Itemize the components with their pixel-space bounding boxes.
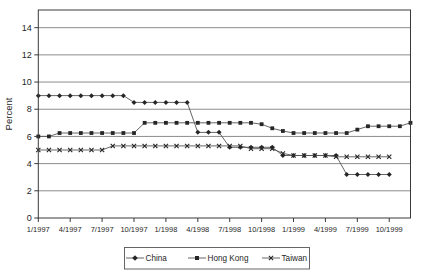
legend-label-hong-kong: Hong Kong bbox=[208, 254, 249, 263]
hong-kong-square-marker-icon bbox=[302, 131, 306, 135]
series-lines bbox=[36, 93, 413, 177]
series-china bbox=[36, 93, 392, 177]
x-axis-label: 10/1997 bbox=[120, 225, 147, 234]
hong-kong-square-marker-icon bbox=[217, 121, 221, 125]
hong-kong-square-marker-icon bbox=[111, 131, 115, 135]
china-diamond-marker-icon bbox=[68, 93, 73, 98]
hong-kong-square-marker-icon bbox=[313, 131, 317, 135]
china-diamond-marker-icon bbox=[110, 93, 115, 98]
china-diamond-marker-icon bbox=[387, 172, 392, 177]
china-diamond-marker-icon bbox=[365, 172, 370, 177]
x-axis-label: 1/1997 bbox=[27, 225, 50, 234]
china-diamond-marker-icon bbox=[132, 100, 137, 105]
y-axis-label: 0 bbox=[27, 213, 32, 223]
line-chart: 02468101214 1/19974/19977/199710/19971/1… bbox=[0, 0, 421, 277]
hong-kong-square-marker-icon bbox=[270, 126, 274, 130]
hong-kong-square-marker-icon bbox=[100, 131, 104, 135]
china-diamond-marker-icon bbox=[376, 172, 381, 177]
hong-kong-square-marker-icon bbox=[387, 124, 391, 128]
hong-kong-square-marker-icon bbox=[196, 121, 200, 125]
china-diamond-marker-icon bbox=[195, 130, 200, 135]
y-axis-label: 8 bbox=[27, 104, 32, 114]
y-axis-label: 14 bbox=[22, 23, 32, 33]
y-gridlines bbox=[38, 28, 410, 191]
hong-kong-square-marker-icon bbox=[121, 131, 125, 135]
hong-kong-square-marker-icon bbox=[366, 124, 370, 128]
hong-kong-square-marker-icon bbox=[249, 121, 253, 125]
china-diamond-marker-icon bbox=[174, 100, 179, 105]
hong-kong-square-marker-icon bbox=[68, 131, 72, 135]
x-axis-ticks bbox=[38, 218, 389, 222]
series-hong-kong bbox=[36, 121, 412, 138]
china-diamond-marker-icon bbox=[206, 130, 211, 135]
y-axis-labels: 02468101214 bbox=[22, 23, 32, 223]
x-axis-label: 7/1997 bbox=[91, 225, 114, 234]
hong-kong-square-marker-icon bbox=[334, 131, 338, 135]
hong-kong-square-marker-icon bbox=[377, 124, 381, 128]
y-axis-label: 6 bbox=[27, 132, 32, 142]
hong-kong-square-marker-icon bbox=[355, 128, 359, 132]
china-diamond-marker-icon bbox=[89, 93, 94, 98]
series-taiwan bbox=[36, 144, 391, 159]
china-diamond-marker-icon bbox=[153, 100, 158, 105]
x-axis-label: 7/1999 bbox=[346, 225, 369, 234]
chart-figure: 02468101214 1/19974/19977/199710/19971/1… bbox=[0, 0, 421, 277]
legend-label-taiwan: Taiwan bbox=[282, 254, 308, 263]
hong-kong-square-marker-icon bbox=[79, 131, 83, 135]
china-diamond-marker-icon bbox=[344, 172, 349, 177]
hong-kong-square-marker-icon bbox=[58, 131, 62, 135]
china-diamond-marker-icon bbox=[121, 93, 126, 98]
hong-kong-square-marker-icon bbox=[185, 121, 189, 125]
legend: China Hong Kong Taiwan bbox=[125, 248, 310, 270]
hong-kong-square-marker-icon bbox=[47, 135, 51, 139]
x-axis-label: 7/1998 bbox=[218, 225, 241, 234]
y-axis-label: 4 bbox=[27, 159, 32, 169]
china-diamond-marker-icon bbox=[355, 172, 360, 177]
china-diamond-marker-icon bbox=[163, 100, 168, 105]
hong-kong-square-marker-icon bbox=[238, 121, 242, 125]
hong-kong-square-marker-icon bbox=[207, 121, 211, 125]
y-axis-ticks bbox=[34, 28, 38, 218]
china-diamond-marker-icon bbox=[185, 100, 190, 105]
hong-kong-square-marker-icon bbox=[324, 131, 328, 135]
x-axis-label: 4/1998 bbox=[186, 225, 209, 234]
y-axis-label: 12 bbox=[22, 50, 32, 60]
hong-kong-square-marker-icon bbox=[228, 121, 232, 125]
plot-frame bbox=[38, 10, 410, 218]
china-diamond-marker-icon bbox=[57, 93, 62, 98]
china-diamond-marker-icon bbox=[142, 100, 147, 105]
hong-kong-square-marker-icon bbox=[132, 131, 136, 135]
hong-kong-square-marker-icon bbox=[175, 121, 179, 125]
x-axis-label: 4/1999 bbox=[314, 225, 337, 234]
hong-kong-square-marker-icon bbox=[281, 129, 285, 133]
x-axis-label: 10/1998 bbox=[248, 225, 275, 234]
y-axis-label: 10 bbox=[22, 77, 32, 87]
hong-kong-square-marker-icon bbox=[292, 131, 296, 135]
hong-kong-square-marker-icon bbox=[153, 121, 157, 125]
y-axis-title: Percent bbox=[3, 97, 14, 130]
hong-kong-square-marker-icon bbox=[195, 256, 199, 260]
china-line bbox=[38, 96, 389, 175]
china-diamond-marker-icon bbox=[78, 93, 83, 98]
hong-kong-square-marker-icon bbox=[164, 121, 168, 125]
x-axis-labels: 1/19974/19977/199710/19971/19984/19987/1… bbox=[27, 225, 403, 234]
china-diamond-marker-icon bbox=[46, 93, 51, 98]
hong-kong-square-marker-icon bbox=[345, 131, 349, 135]
china-diamond-marker-icon bbox=[100, 93, 105, 98]
y-axis-label: 2 bbox=[27, 186, 32, 196]
x-axis-label: 1/1998 bbox=[154, 225, 177, 234]
hong-kong-square-marker-icon bbox=[90, 131, 94, 135]
legend-label-china: China bbox=[146, 254, 168, 263]
hong-kong-square-marker-icon bbox=[398, 124, 402, 128]
hong-kong-line bbox=[38, 123, 410, 137]
x-axis-label: 1/1999 bbox=[282, 225, 305, 234]
hong-kong-square-marker-icon bbox=[143, 121, 147, 125]
x-axis-label: 10/1999 bbox=[376, 225, 403, 234]
hong-kong-square-marker-icon bbox=[260, 122, 264, 126]
x-axis-label: 4/1997 bbox=[59, 225, 82, 234]
